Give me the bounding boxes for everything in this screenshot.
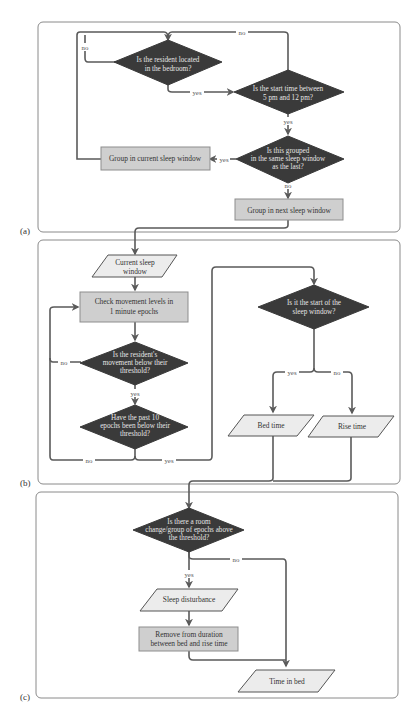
io-sleep-disturbance: Sleep disturbance — [140, 589, 238, 611]
edge-label-yes: yes — [283, 118, 292, 125]
flowchart: (a) (b) (c) no no yes yes yes no Is the … — [0, 0, 419, 717]
edge-label-no: no — [61, 359, 68, 366]
svg-text:Group in next sleep window: Group in next sleep window — [247, 206, 331, 215]
edge-label-no: no — [239, 29, 246, 36]
decision-start-of-sleep-window: Is it the start of thesleep window? — [258, 285, 369, 329]
io-current-sleep-window: Current sleepwindow — [92, 255, 177, 277]
edge-label-yes: yes — [219, 156, 228, 163]
decision-resident-in-bedroom: Is the resident locatedin the bedroom? — [114, 40, 222, 85]
svg-text:Sleep disturbance: Sleep disturbance — [163, 595, 216, 604]
edge-label-yes: yes — [287, 369, 296, 376]
process-group-next-window: Group in next sleep window — [235, 199, 343, 220]
process-group-current-window: Group in current sleep window — [101, 147, 210, 170]
edge-label-no: no — [334, 369, 341, 376]
svg-text:Remove from durationbetween be: Remove from durationbetween bed and rise… — [150, 630, 228, 648]
panel-a — [38, 22, 400, 232]
process-check-movement: Check movement levels in1 minute epochs — [80, 292, 188, 322]
edge-label-yes: yes — [164, 457, 173, 464]
svg-text:Is the resident locatedin the: Is the resident locatedin the bedroom? — [137, 56, 200, 73]
panel-b-label: (b) — [20, 478, 31, 488]
decision-start-time: Is the start time between5 pm and 12 pm? — [234, 70, 344, 114]
decision-movement-below-threshold: Is the resident'smovement below theirthr… — [80, 342, 188, 385]
decision-grouped-same-window: Is this groupedin the same sleep windowa… — [236, 136, 344, 183]
io-rise-time: Rise time — [308, 416, 394, 437]
decision-room-change: Is there a roomchange/group of epochs ab… — [133, 508, 244, 552]
process-remove-duration: Remove from durationbetween bed and rise… — [139, 627, 238, 651]
io-time-in-bed: Time in bed — [238, 670, 335, 692]
svg-text:Bed time: Bed time — [258, 421, 286, 430]
svg-text:Is it the start of thesleep wi: Is it the start of thesleep window? — [287, 299, 341, 316]
panel-a-label: (a) — [20, 226, 30, 236]
decision-past-10-epochs: Have the past 10epochs been below theirt… — [80, 405, 188, 449]
io-bed-time: Bed time — [228, 415, 314, 436]
edge-risetime-to-c — [273, 437, 351, 481]
svg-text:Group in current sleep window: Group in current sleep window — [109, 154, 202, 163]
panel-c-label: (c) — [20, 692, 30, 702]
svg-text:Is the start time between5 pm: Is the start time between5 pm and 12 pm? — [253, 85, 324, 102]
edge-label-no: no — [233, 556, 240, 563]
svg-text:Time in bed: Time in bed — [269, 677, 305, 686]
edge-label-yes: yes — [184, 571, 193, 578]
edge-bedtime-to-c — [189, 436, 273, 508]
svg-text:Rise time: Rise time — [338, 422, 367, 431]
edge-label-yes: yes — [192, 89, 201, 96]
edge-label-yes: yes — [130, 390, 139, 397]
edge-movement-no — [50, 307, 81, 362]
edge-label-no: no — [82, 44, 89, 51]
edge-next-to-b — [135, 220, 288, 254]
edge-label-no: no — [86, 457, 93, 464]
